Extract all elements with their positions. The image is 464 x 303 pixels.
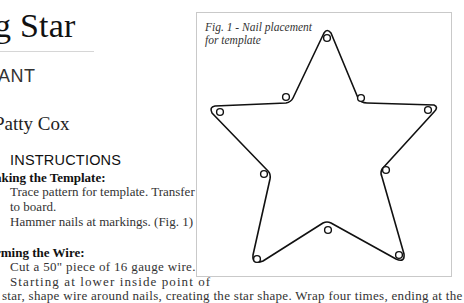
nail-marker-icon bbox=[261, 171, 268, 178]
nail-marker-icon bbox=[396, 252, 403, 259]
nail-marker-icon bbox=[358, 95, 365, 102]
nail-marker-icon bbox=[283, 94, 290, 101]
nail-markers bbox=[217, 35, 432, 263]
nail-marker-icon bbox=[325, 227, 332, 234]
nail-marker-icon bbox=[425, 107, 432, 114]
star-template-drawing bbox=[1, 1, 464, 303]
nail-marker-icon bbox=[324, 35, 331, 42]
nail-marker-icon bbox=[254, 256, 261, 263]
step-shape-wire: star, shape wire around nails, creating … bbox=[2, 289, 463, 303]
star-wire-outline bbox=[211, 31, 437, 263]
nail-marker-icon bbox=[383, 167, 390, 174]
figure-nail-placement: Fig. 1 - Nail placement for template bbox=[196, 12, 452, 277]
nail-marker-icon bbox=[217, 109, 224, 116]
